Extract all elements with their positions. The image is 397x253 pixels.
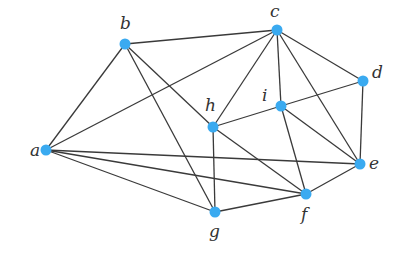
node-i (276, 101, 287, 112)
nodes-layer (41, 25, 369, 218)
edge-h-i (213, 106, 281, 127)
node-label-h: h (205, 95, 216, 115)
edge-a-g (46, 150, 215, 212)
node-label-i: i (262, 85, 267, 105)
edge-a-c (46, 30, 277, 150)
edge-i-e (281, 106, 360, 164)
edge-c-e (277, 30, 360, 164)
edges-layer (46, 30, 363, 212)
edge-a-b (46, 44, 125, 150)
node-e (355, 159, 366, 170)
node-g (210, 207, 221, 218)
edge-c-h (213, 30, 277, 127)
node-c (272, 25, 283, 36)
node-label-b: b (120, 13, 131, 33)
edge-d-e (360, 81, 363, 164)
node-f (301, 189, 312, 200)
node-label-g: g (209, 221, 220, 241)
node-label-e: e (369, 153, 379, 173)
node-label-f: f (299, 204, 310, 224)
node-label-d: d (372, 62, 383, 82)
edge-c-d (277, 30, 363, 81)
edge-c-i (277, 30, 281, 106)
node-d (358, 76, 369, 87)
edge-f-g (215, 194, 306, 212)
node-a (41, 145, 52, 156)
edge-b-h (125, 44, 213, 127)
edge-a-e (46, 150, 360, 164)
node-label-c: c (270, 1, 280, 21)
edge-i-f (281, 106, 306, 194)
edge-e-f (306, 164, 360, 194)
graph-diagram: abcdefghi (0, 0, 397, 253)
node-h (208, 122, 219, 133)
node-label-a: a (30, 140, 40, 160)
edge-h-g (213, 127, 215, 212)
node-b (120, 39, 131, 50)
edge-a-f (46, 150, 306, 194)
